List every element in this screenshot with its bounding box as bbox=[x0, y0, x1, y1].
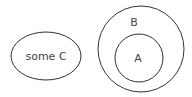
set-a-label: A bbox=[134, 52, 142, 65]
euler-diagram: some C B A bbox=[0, 0, 192, 97]
set-b-circle bbox=[98, 6, 184, 92]
set-c-label: some C bbox=[25, 50, 66, 63]
set-b-label: B bbox=[130, 16, 138, 29]
